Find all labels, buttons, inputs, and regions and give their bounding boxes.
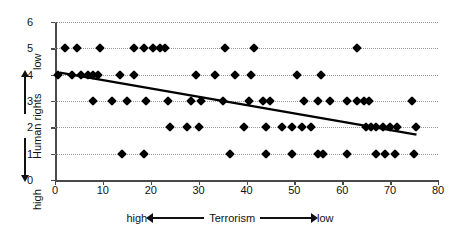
x-tick-label: 20 <box>145 184 157 196</box>
x-axis-title-group: high Terrorism low <box>0 206 460 230</box>
y-tick-label: 3 <box>0 95 33 107</box>
y-tick-label: 1 <box>0 148 33 160</box>
y-tick-label: 5 <box>0 42 33 54</box>
x-tick-label: 0 <box>52 184 58 196</box>
x-tick-label: 30 <box>193 184 205 196</box>
y-tick-label: 6 <box>0 16 33 28</box>
x-tick-label: 60 <box>336 184 348 196</box>
y-axis-top-anchor-label: low <box>31 53 43 70</box>
x-axis-label: Terrorism <box>209 212 255 224</box>
trendline-segment <box>60 73 417 135</box>
scatter-chart-figure: low Human rights high 0123456 0102030405… <box>0 0 460 237</box>
x-tick-label: 40 <box>240 184 252 196</box>
x-tick-label: 70 <box>384 184 396 196</box>
x-axis-right-anchor-label: low <box>317 212 334 224</box>
x-tick-label: 80 <box>432 184 444 196</box>
plot-area: 0123456 01020304050607080 <box>55 22 438 180</box>
x-axis-left-anchor-label: high <box>126 212 147 224</box>
trendline <box>55 22 438 180</box>
x-tick-label: 10 <box>97 184 109 196</box>
y-tick-label: 4 <box>0 69 33 81</box>
x-tick-label: 50 <box>288 184 300 196</box>
y-tick-label: 0 <box>0 174 33 186</box>
x-axis-left-arrow-icon <box>152 217 204 219</box>
x-axis-right-arrow-icon <box>260 217 312 219</box>
y-tick-label: 2 <box>0 121 33 133</box>
